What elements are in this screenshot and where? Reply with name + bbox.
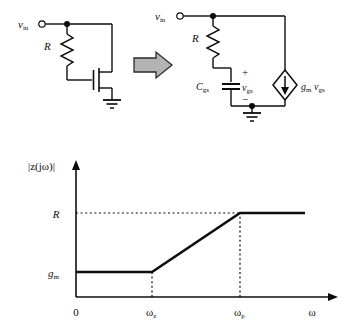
capacitor-label: Cgs [196,81,209,94]
left-resistor-label: R [43,40,51,52]
transform-arrow-icon [134,52,172,78]
left-input-terminal-icon [39,21,45,27]
polarity-plus-label: + [242,66,248,78]
x-tick-wz-base: ω [146,306,153,318]
left-mosfet-icon [94,68,113,100]
left-vin-sub: in [23,24,29,32]
left-vin-label: vin [18,18,29,32]
y-tick-label-R: R [52,208,60,220]
right-vin-sub: in [160,16,166,24]
right-resistor-zigzag-icon [207,26,219,58]
gm-vgs-label: gm vgs [301,81,325,94]
magnitude-asymptote-curve [76,213,305,272]
x-axis-label: ω [308,306,315,318]
y-tick-label-gm: gm [48,267,60,281]
right-input-terminal-icon [177,13,183,19]
x-axis-arrowhead [328,293,338,301]
left-resistor-zigzag-icon [61,34,73,66]
figure-root: vin R [0,0,356,329]
x-tick-wp-base: ω [234,306,241,318]
x-tick-wz-sub: z [153,312,156,320]
right-vin-label: vin [155,10,166,24]
y-axis-arrowhead [72,160,80,170]
dependent-current-source-icon [273,70,297,100]
x-tick-label-omega-z: ωz [146,306,156,320]
y-tick-gm-sub: m [54,273,60,281]
circuit-right: vin R Cgs + vgs − [155,10,325,121]
y-axis-label: |z(jω)| [28,160,55,173]
capacitor-label-sub: gs [203,86,210,94]
polarity-minus-label: − [242,93,248,105]
x-tick-label-omega-p: ωp [234,306,245,320]
figure-svg: vin R [0,0,356,329]
x-tick-label-zero: 0 [73,306,79,318]
left-ground-icon [103,100,121,108]
capacitor-cgs-icon [222,84,240,89]
gm-v-sub: gs [318,86,325,94]
bode-plot: |z(jω)| R gm 0 ωz ωp ω [28,160,338,320]
x-tick-wp-sub: p [241,312,245,320]
circuit-left: vin R [18,18,121,108]
right-ground-icon [243,113,261,121]
right-resistor-label: R [191,32,199,44]
